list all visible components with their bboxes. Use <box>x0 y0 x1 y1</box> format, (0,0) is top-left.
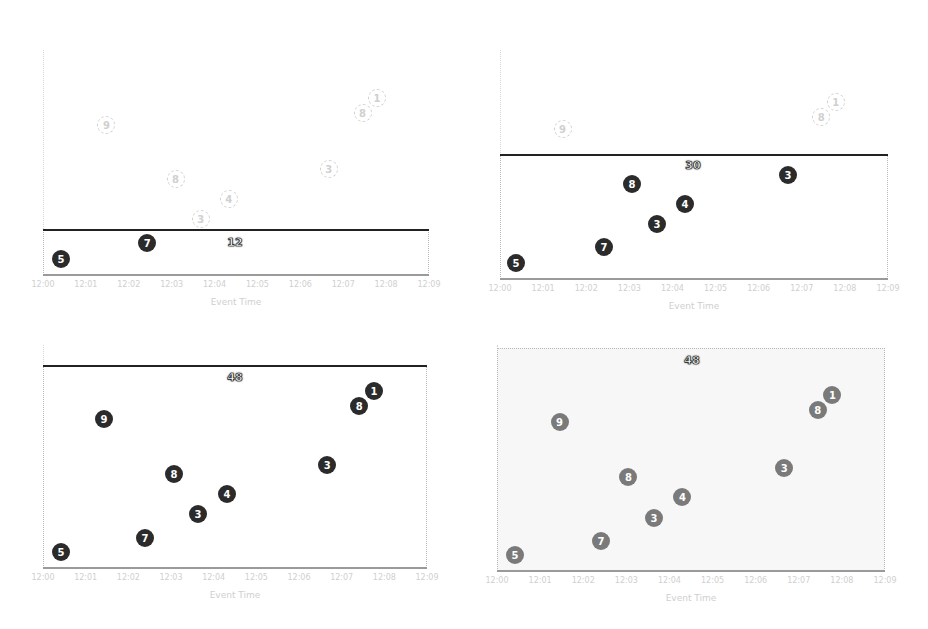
watermark-region <box>500 155 888 279</box>
watermark-line <box>43 229 429 231</box>
data-point: 1 <box>368 89 386 107</box>
data-point: 4 <box>220 190 238 208</box>
x-tick-label: 12:07 <box>330 573 353 582</box>
x-tick-label: 12:08 <box>373 573 396 582</box>
x-axis <box>497 570 885 572</box>
data-point: 3 <box>192 210 210 228</box>
data-point: 3 <box>645 509 663 527</box>
watermark-line <box>43 365 427 367</box>
data-point: 4 <box>673 488 691 506</box>
data-point: 4 <box>676 195 694 213</box>
data-point: 8 <box>167 170 185 188</box>
watermark-label: 48 <box>227 371 242 384</box>
data-point: 8 <box>165 465 183 483</box>
x-tick-label: 12:03 <box>159 573 182 582</box>
x-tick-label: 12:09 <box>417 280 440 289</box>
data-point: 8 <box>619 468 637 486</box>
x-axis-title: Event Time <box>666 593 717 603</box>
x-tick-label: 12:08 <box>833 284 856 293</box>
data-point: 5 <box>507 254 525 272</box>
data-point: 9 <box>97 116 115 134</box>
x-axis <box>500 278 888 280</box>
x-tick-label: 12:07 <box>787 576 810 585</box>
data-point: 5 <box>52 250 70 268</box>
data-point: 3 <box>779 166 797 184</box>
x-tick-label: 12:06 <box>287 573 310 582</box>
x-tick-label: 12:01 <box>532 284 555 293</box>
x-tick-label: 12:09 <box>415 573 438 582</box>
watermark-line <box>500 154 888 156</box>
x-tick-label: 12:04 <box>202 573 225 582</box>
data-point: 3 <box>320 160 338 178</box>
x-tick-label: 12:05 <box>246 280 269 289</box>
x-tick-label: 12:08 <box>830 576 853 585</box>
x-tick-label: 12:06 <box>744 576 767 585</box>
data-point: 8 <box>812 108 830 126</box>
data-point: 7 <box>136 529 154 547</box>
data-point: 3 <box>189 505 207 523</box>
watermark-region <box>497 348 885 571</box>
x-tick-label: 12:00 <box>485 576 508 585</box>
x-tick-label: 12:02 <box>117 573 140 582</box>
data-point: 1 <box>365 382 383 400</box>
x-tick-label: 12:01 <box>74 573 97 582</box>
x-tick-label: 12:02 <box>117 280 140 289</box>
data-point: 5 <box>52 543 70 561</box>
data-point: 9 <box>554 120 572 138</box>
x-tick-label: 12:03 <box>615 576 638 585</box>
data-point: 4 <box>218 485 236 503</box>
watermark-label: 30 <box>685 159 700 172</box>
x-tick-label: 12:00 <box>31 573 54 582</box>
x-tick-label: 12:04 <box>658 576 681 585</box>
x-tick-label: 12:08 <box>375 280 398 289</box>
x-tick-label: 12:03 <box>618 284 641 293</box>
data-point: 7 <box>138 234 156 252</box>
x-tick-label: 12:00 <box>31 280 54 289</box>
x-tick-label: 12:00 <box>488 284 511 293</box>
data-point: 5 <box>506 546 524 564</box>
x-axis <box>43 274 429 276</box>
x-tick-label: 12:05 <box>704 284 727 293</box>
x-tick-label: 12:07 <box>790 284 813 293</box>
data-point: 1 <box>823 386 841 404</box>
data-point: 9 <box>95 410 113 428</box>
x-tick-label: 12:03 <box>160 280 183 289</box>
data-point: 3 <box>318 456 336 474</box>
x-axis-title: Event Time <box>669 301 720 311</box>
data-point: 9 <box>551 413 569 431</box>
data-point: 3 <box>775 459 793 477</box>
x-tick-label: 12:07 <box>332 280 355 289</box>
x-tick-label: 12:01 <box>74 280 97 289</box>
x-axis-title: Event Time <box>210 590 261 600</box>
x-tick-label: 12:02 <box>572 576 595 585</box>
data-point: 1 <box>827 93 845 111</box>
x-tick-label: 12:09 <box>876 284 899 293</box>
data-point: 8 <box>350 397 368 415</box>
x-tick-label: 12:06 <box>289 280 312 289</box>
x-axis <box>43 567 427 569</box>
data-point: 8 <box>809 401 827 419</box>
x-axis-title: Event Time <box>211 297 262 307</box>
x-tick-label: 12:01 <box>529 576 552 585</box>
data-point: 7 <box>592 532 610 550</box>
watermark-label: 12 <box>227 236 242 249</box>
x-tick-label: 12:02 <box>575 284 598 293</box>
watermark-label: 48 <box>684 354 699 367</box>
x-tick-label: 12:04 <box>203 280 226 289</box>
x-tick-label: 12:05 <box>245 573 268 582</box>
data-point: 8 <box>354 104 372 122</box>
data-point: 3 <box>648 215 666 233</box>
x-tick-label: 12:06 <box>747 284 770 293</box>
x-tick-label: 12:05 <box>701 576 724 585</box>
data-point: 8 <box>623 175 641 193</box>
x-tick-label: 12:04 <box>661 284 684 293</box>
x-tick-label: 12:09 <box>873 576 896 585</box>
data-point: 7 <box>595 238 613 256</box>
